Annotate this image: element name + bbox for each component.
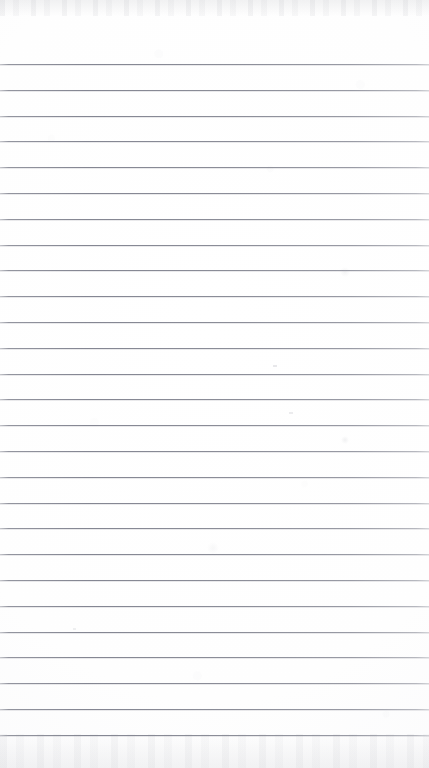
rule-line — [0, 219, 429, 220]
rule-line — [0, 245, 429, 246]
rule-line — [0, 709, 429, 710]
rule-line — [0, 193, 429, 194]
rule-line — [0, 116, 429, 117]
scanned-page — [0, 0, 429, 768]
rule-line — [0, 141, 429, 142]
rule-line — [0, 503, 429, 504]
rule-line — [0, 606, 429, 607]
rule-line — [0, 580, 429, 581]
rule-line — [0, 735, 429, 736]
rule-line — [0, 322, 429, 323]
rule-line — [0, 554, 429, 555]
rule-line — [0, 399, 429, 400]
rule-line — [0, 683, 429, 684]
rule-line — [0, 64, 429, 65]
rule-line — [0, 90, 429, 91]
rule-line — [0, 270, 429, 271]
rule-line — [0, 657, 429, 658]
rule-line — [0, 348, 429, 349]
rule-line — [0, 374, 429, 375]
rule-line — [0, 425, 429, 426]
ruled-lines-layer — [0, 0, 429, 768]
rule-line — [0, 451, 429, 452]
rule-line — [0, 167, 429, 168]
rule-line — [0, 632, 429, 633]
rule-line — [0, 528, 429, 529]
rule-line — [0, 477, 429, 478]
rule-line — [0, 296, 429, 297]
